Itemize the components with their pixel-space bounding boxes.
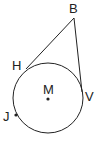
tangent-bh <box>26 18 74 69</box>
label-j: J <box>3 109 10 124</box>
label-v: V <box>85 89 94 104</box>
point-j <box>14 113 17 116</box>
label-m: M <box>43 82 54 97</box>
label-h: H <box>12 58 21 73</box>
label-b: B <box>69 1 78 16</box>
center-point-m <box>46 97 49 100</box>
geometry-diagram: B H M V J <box>0 0 103 145</box>
